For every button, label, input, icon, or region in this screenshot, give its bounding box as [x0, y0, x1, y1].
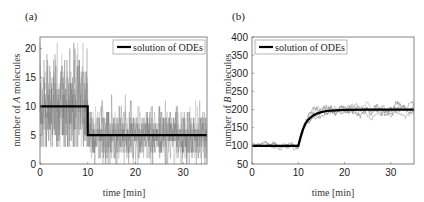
svg-text:100: 100 — [231, 140, 248, 151]
svg-text:20: 20 — [25, 43, 37, 54]
chart-b: 010203050100150200250300350400 solution … — [222, 32, 414, 199]
chart-a-legend: solution of ODEs — [113, 40, 205, 54]
figure: (a) (b) 010203005101520 solution of ODEs… — [0, 0, 424, 202]
chart-b-ode-line — [252, 110, 414, 146]
panel-a-label: (a) — [25, 10, 38, 23]
chart-b-stochastic-traces — [252, 101, 414, 150]
svg-text:0: 0 — [30, 159, 36, 170]
svg-text:10: 10 — [25, 101, 37, 112]
svg-text:300: 300 — [231, 68, 248, 79]
chart-a-legend-text: solution of ODEs — [133, 42, 203, 53]
svg-text:150: 150 — [231, 122, 248, 133]
chart-a: 010203005101520 solution of ODEs time [m… — [11, 37, 207, 198]
chart-a-xlabel: time [min] — [103, 187, 146, 198]
svg-text:50: 50 — [237, 159, 249, 170]
svg-text:0: 0 — [249, 167, 255, 178]
chart-a-ylabel: number of A molecules — [11, 53, 22, 146]
svg-text:0: 0 — [37, 167, 43, 178]
svg-text:20: 20 — [339, 167, 351, 178]
svg-text:15: 15 — [25, 72, 37, 83]
svg-text:10: 10 — [293, 167, 305, 178]
chart-b-xlabel: time [min] — [312, 187, 355, 198]
chart-b-ylabel: number of B molecules — [222, 53, 233, 146]
svg-text:10: 10 — [82, 167, 94, 178]
chart-a-stochastic-traces — [40, 43, 207, 164]
svg-text:30: 30 — [178, 167, 190, 178]
svg-text:20: 20 — [130, 167, 142, 178]
chart-b-legend: solution of ODEs — [255, 40, 347, 54]
svg-text:350: 350 — [231, 50, 248, 61]
svg-text:200: 200 — [231, 104, 248, 115]
svg-text:5: 5 — [30, 130, 36, 141]
svg-text:250: 250 — [231, 86, 248, 97]
panel-b-label: (b) — [232, 10, 245, 23]
svg-text:30: 30 — [385, 167, 397, 178]
chart-b-legend-text: solution of ODEs — [275, 42, 345, 53]
svg-text:400: 400 — [231, 32, 248, 43]
